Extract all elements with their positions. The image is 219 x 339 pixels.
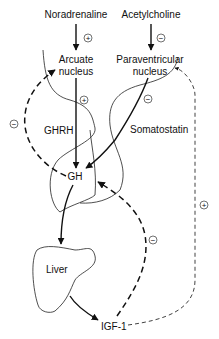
label-gh: GH	[68, 171, 83, 182]
arrow-igf1-feedback-paraventricular	[128, 68, 195, 325]
liver-shape	[33, 247, 95, 313]
sign-arcuate-gh: +	[82, 96, 87, 105]
sign-paraventricular-gh: −	[146, 95, 151, 104]
label-somatostatin: Somatostatin	[130, 124, 188, 135]
arrow-igf1-feedback-gh	[98, 182, 146, 316]
sign-gh-feedback: −	[12, 120, 17, 129]
label-arcuate: Arcuate	[59, 54, 94, 65]
label-igf1: IGF-1	[101, 321, 127, 332]
sign-noradrenaline-arcuate: +	[86, 34, 91, 43]
arrow-liver-igf1	[70, 296, 98, 320]
label-arcuate-nucleus: nucleus	[59, 66, 93, 77]
label-ghrh: GHRH	[44, 125, 73, 136]
gh-regulation-diagram: + − + − − − + Noradrenaline Acetylcholin…	[0, 0, 219, 339]
arrow-paraventricular-gh	[86, 78, 148, 168]
label-liver: Liver	[46, 264, 68, 275]
arrow-gh-liver	[61, 185, 73, 244]
label-paraventricular: Paraventricular	[116, 54, 184, 65]
sign-acetylcholine-paraventricular: −	[159, 34, 164, 43]
arrow-gh-feedback-arcuate	[25, 70, 66, 176]
label-acetylcholine: Acetylcholine	[122, 9, 181, 20]
sign-igf1-paraventricular: +	[202, 201, 207, 210]
label-paraventricular-nucleus: nucleus	[133, 66, 167, 77]
sign-igf1-gh: −	[151, 236, 156, 245]
label-noradrenaline: Noradrenaline	[45, 9, 108, 20]
